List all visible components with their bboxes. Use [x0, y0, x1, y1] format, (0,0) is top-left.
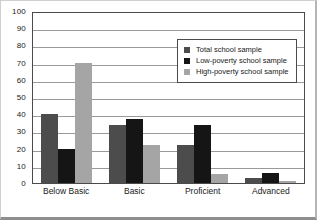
bar[interactable] [143, 145, 160, 183]
bar-group [33, 13, 101, 183]
y-axis: 1009080706050403020100 [1, 12, 29, 184]
legend-swatch-icon [184, 69, 190, 75]
chart-figure: 1009080706050403020100 Below BasicBasicP… [0, 0, 317, 220]
bar[interactable] [279, 181, 296, 183]
x-tick-label: Advanced [237, 187, 305, 205]
bar[interactable] [41, 114, 58, 183]
legend-swatch-icon [184, 58, 190, 64]
legend-item-label: Total school sample [196, 46, 262, 54]
legend-item-label: Low-poverty school sample [196, 57, 287, 65]
y-tick-label: 20 [17, 146, 26, 154]
y-tick-label: 0 [21, 180, 26, 188]
x-tick-label: Proficient [169, 187, 237, 205]
x-tick-label: Basic [100, 187, 168, 205]
y-tick-label: 100 [12, 8, 26, 16]
y-tick-label: 60 [17, 77, 26, 85]
bar[interactable] [58, 149, 75, 183]
y-tick-label: 90 [17, 25, 26, 33]
y-tick-label: 80 [17, 42, 26, 50]
bar[interactable] [75, 63, 92, 183]
plot-area [32, 12, 305, 184]
bar[interactable] [194, 125, 211, 183]
legend-item[interactable]: High-poverty school sample [184, 67, 291, 77]
legend-swatch-icon [184, 47, 190, 53]
x-tick-label: Below Basic [32, 187, 100, 205]
x-axis: Below BasicBasicProficientAdvanced [32, 187, 305, 205]
chart-legend: Total school sampleLow-poverty school sa… [177, 39, 297, 83]
bar-group [101, 13, 169, 183]
bar[interactable] [126, 119, 143, 183]
bar[interactable] [109, 125, 126, 183]
y-tick-label: 30 [17, 128, 26, 136]
y-tick-label: 40 [17, 111, 26, 119]
y-tick-label: 70 [17, 60, 26, 68]
bar[interactable] [245, 178, 262, 183]
legend-item-label: High-poverty school sample [196, 68, 289, 76]
bar[interactable] [211, 174, 228, 183]
bar[interactable] [177, 145, 194, 183]
y-tick-label: 50 [17, 94, 26, 102]
y-tick-label: 10 [17, 163, 26, 171]
legend-item[interactable]: Low-poverty school sample [184, 56, 291, 66]
bar[interactable] [262, 173, 279, 183]
legend-item[interactable]: Total school sample [184, 45, 291, 55]
